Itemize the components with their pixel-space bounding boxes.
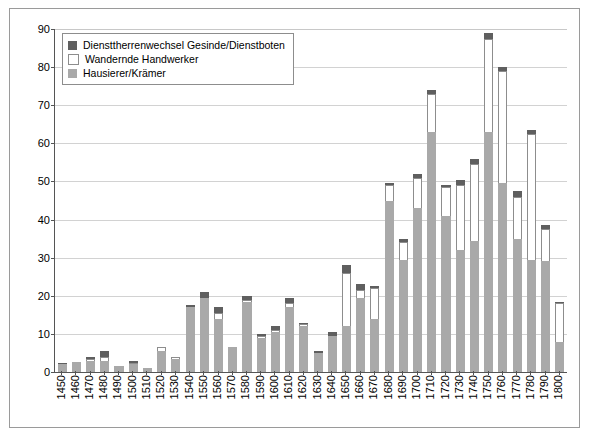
segment-hausierer-kraemer-1570 [228, 347, 237, 372]
bar-1770[interactable] [513, 191, 522, 372]
bar-1520[interactable] [157, 347, 166, 372]
bar-1640[interactable] [328, 332, 337, 372]
x-tick-label-1700: 1700 [411, 375, 422, 399]
x-label-slot-1620: 1620 [296, 375, 310, 421]
legend-label-wandernde: Wandernde Handwerker [85, 54, 198, 65]
bar-1510[interactable] [143, 368, 152, 372]
bar-1650[interactable] [342, 265, 351, 372]
bar-1670[interactable] [370, 286, 379, 372]
x-label-slot-1580: 1580 [239, 375, 253, 421]
x-tick-label-1450: 1450 [56, 375, 67, 399]
bar-1740[interactable] [470, 159, 479, 372]
bar-1580[interactable] [242, 296, 251, 372]
bar-1800[interactable] [555, 302, 564, 372]
bar-slot-1740 [467, 29, 481, 372]
bar-1660[interactable] [356, 284, 365, 372]
legend-label-dienst: Diensttherrenwechsel Gesinde/Dienstboten [83, 40, 285, 51]
bar-1790[interactable] [541, 225, 550, 372]
segment-hausierer-kraemer-1670 [370, 319, 379, 372]
bar-1550[interactable] [200, 292, 209, 372]
segment-wandernde-handwerker-1670 [370, 288, 379, 318]
x-tick-label-1480: 1480 [98, 375, 109, 399]
x-label-slot-1740: 1740 [466, 375, 480, 421]
bar-slot-1760 [496, 29, 510, 372]
x-label-slot-1530: 1530 [168, 375, 182, 421]
bar-1760[interactable] [498, 67, 507, 372]
segment-wandernde-handwerker-1660 [356, 290, 365, 298]
bar-1720[interactable] [441, 185, 450, 372]
x-label-slot-1670: 1670 [367, 375, 381, 421]
segment-hausierer-kraemer-1730 [456, 250, 465, 372]
bar-1700[interactable] [413, 174, 422, 372]
segment-hausierer-kraemer-1450 [58, 364, 67, 372]
bar-1600[interactable] [271, 326, 280, 372]
segment-hausierer-kraemer-1680 [385, 201, 394, 373]
y-tick-label-20: 20 [38, 290, 50, 302]
bar-slot-1680 [382, 29, 396, 372]
x-label-slot-1600: 1600 [267, 375, 281, 421]
x-tick-label-1770: 1770 [511, 375, 522, 399]
segment-hausierer-kraemer-1630 [314, 353, 323, 372]
bar-slot-1620 [297, 29, 311, 372]
bar-1530[interactable] [171, 357, 180, 372]
x-tick-label-1550: 1550 [198, 375, 209, 399]
segment-wandernde-handwerker-1760 [498, 71, 507, 183]
bar-slot-1630 [311, 29, 325, 372]
segment-hausierer-kraemer-1790 [541, 261, 550, 372]
legend-item-dienst: Diensttherrenwechsel Gesinde/Dienstboten [68, 38, 285, 52]
x-label-slot-1720: 1720 [438, 375, 452, 421]
bar-1450[interactable] [58, 363, 67, 373]
bar-slot-1690 [396, 29, 410, 372]
segment-wandernde-handwerker-1730 [456, 185, 465, 250]
bar-slot-1750 [482, 29, 496, 372]
x-tick-label-1680: 1680 [383, 375, 394, 399]
segment-wandernde-handwerker-1740 [470, 164, 479, 240]
bar-1620[interactable] [299, 323, 308, 373]
x-label-slot-1500: 1500 [125, 375, 139, 421]
bar-1710[interactable] [427, 90, 436, 372]
x-label-slot-1750: 1750 [481, 375, 495, 421]
x-label-slot-1550: 1550 [196, 375, 210, 421]
bar-1780[interactable] [527, 130, 536, 372]
x-label-slot-1510: 1510 [139, 375, 153, 421]
segment-hausierer-kraemer-1520 [157, 351, 166, 372]
bar-1480[interactable] [100, 351, 109, 372]
bar-1690[interactable] [399, 239, 408, 372]
bar-1500[interactable] [129, 361, 138, 372]
segment-wandernde-handwerker-1700 [413, 178, 422, 208]
segment-hausierer-kraemer-1750 [484, 132, 493, 372]
bar-1590[interactable] [257, 334, 266, 372]
x-label-slot-1540: 1540 [182, 375, 196, 421]
bar-1560[interactable] [214, 307, 223, 372]
bar-1460[interactable] [72, 362, 81, 372]
bar-1540[interactable] [186, 305, 195, 372]
segment-hausierer-kraemer-1490 [114, 366, 123, 372]
x-label-slot-1690: 1690 [395, 375, 409, 421]
bar-1610[interactable] [285, 298, 294, 372]
y-tick-label-80: 80 [38, 61, 50, 73]
x-axis-labels: 1450146014701480149015001510152015301540… [54, 375, 566, 421]
x-label-slot-1490: 1490 [111, 375, 125, 421]
bar-1630[interactable] [314, 351, 323, 372]
x-tick-label-1630: 1630 [312, 375, 323, 399]
bar-1490[interactable] [114, 366, 123, 372]
x-tick-label-1460: 1460 [70, 375, 81, 399]
bar-1680[interactable] [385, 183, 394, 372]
segment-hausierer-kraemer-1800 [555, 342, 564, 372]
bar-1470[interactable] [86, 357, 95, 372]
chart-figure: 0102030405060708090 14501460147014801490… [9, 8, 580, 428]
bar-1750[interactable] [484, 33, 493, 372]
x-label-slot-1760: 1760 [495, 375, 509, 421]
segment-wandernde-handwerker-1780 [527, 134, 536, 260]
segment-wandernde-handwerker-1650 [342, 273, 351, 326]
bar-1730[interactable] [456, 180, 465, 372]
x-tick-label-1620: 1620 [297, 375, 308, 399]
segment-wandernde-handwerker-1710 [427, 94, 436, 132]
x-tick-label-1590: 1590 [255, 375, 266, 399]
x-tick-label-1740: 1740 [468, 375, 479, 399]
x-label-slot-1480: 1480 [97, 375, 111, 421]
x-tick-label-1540: 1540 [184, 375, 195, 399]
segment-wandernde-handwerker-1770 [513, 197, 522, 239]
bar-1570[interactable] [228, 347, 237, 372]
legend-swatch-hausierer-icon [68, 69, 77, 78]
